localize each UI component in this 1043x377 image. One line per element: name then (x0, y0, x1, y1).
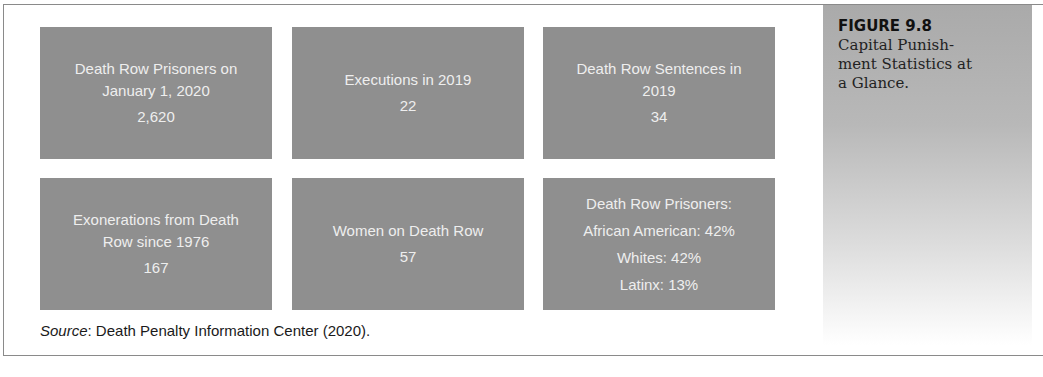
stat-executions-2019: Executions in 2019 22 (292, 27, 524, 159)
stat-value: 2,620 (137, 106, 175, 128)
source-citation: Source: Death Penalty Information Center… (40, 322, 370, 339)
stat-death-row-sentences-2019: Death Row Sentences in 2019 34 (543, 27, 775, 159)
stat-value: 34 (651, 106, 668, 128)
stat-label-line: Exonerations from Death (73, 209, 239, 231)
stat-label-line: Death Row Prisoners: (586, 190, 732, 217)
stat-label-line: Death Row Prisoners on (75, 58, 238, 80)
figure-title-line: ment Statistics at (838, 55, 1028, 74)
stat-breakdown-latinx: Latinx: 13% (620, 271, 698, 298)
stat-value: 167 (143, 257, 168, 279)
figure-title: Capital Punish- ment Statistics at a Gla… (838, 36, 1028, 93)
stat-label-line: Row since 1976 (103, 231, 210, 253)
stat-death-row-demographics: Death Row Prisoners: African American: 4… (543, 178, 775, 310)
stat-label-line: Women on Death Row (333, 220, 484, 242)
source-prefix: Source (40, 322, 88, 339)
stat-exonerations: Exonerations from Death Row since 1976 1… (40, 178, 272, 310)
stat-breakdown-whites: Whites: 42% (617, 244, 701, 271)
stat-label-line: Death Row Sentences in (576, 58, 741, 80)
stat-label-line: 2019 (642, 80, 675, 102)
stat-value: 22 (400, 95, 417, 117)
source-text: : Death Penalty Information Center (2020… (88, 322, 371, 339)
stat-death-row-prisoners: Death Row Prisoners on January 1, 2020 2… (40, 27, 272, 159)
stat-breakdown-african-american: African American: 42% (583, 217, 735, 244)
figure-caption: FIGURE 9.8 Capital Punish- ment Statisti… (838, 17, 1028, 93)
stat-value: 57 (400, 246, 417, 268)
stat-label-line: January 1, 2020 (102, 80, 210, 102)
figure-label: FIGURE 9.8 (838, 17, 1028, 36)
stat-women-on-death-row: Women on Death Row 57 (292, 178, 524, 310)
figure-title-line: Capital Punish- (838, 36, 1028, 55)
stat-label-line: Executions in 2019 (345, 69, 472, 91)
figure-title-line: a Glance. (838, 74, 1028, 93)
